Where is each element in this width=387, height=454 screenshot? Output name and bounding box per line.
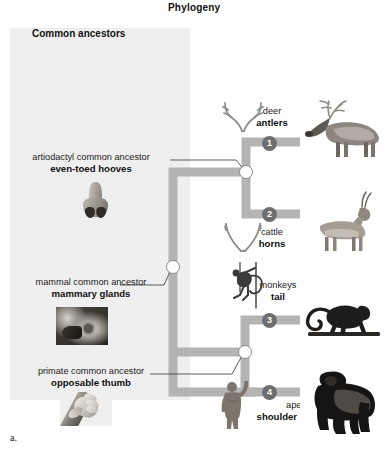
node-primate-ancestor[interactable] (238, 345, 252, 359)
mammary-photo-hand-shape (62, 326, 82, 339)
ancestor-label-artiodactyl: artiodactyl common ancestor even-toed ho… (6, 152, 176, 174)
antlers-sketch (222, 98, 264, 132)
mammary-glands-photo (56, 307, 108, 345)
ancestor-trait-primate: opposable thumb (6, 377, 176, 388)
opposable-thumb-photo (60, 392, 112, 426)
ancestor-name-primate: primate common ancestor (6, 366, 176, 376)
gorilla-photo (300, 368, 387, 436)
monkey-photo (300, 292, 387, 344)
branch-badge-1[interactable]: 1 (262, 136, 277, 151)
branch-badge-2[interactable]: 2 (262, 207, 277, 222)
ancestor-label-primate: primate common ancestor opposable thumb (6, 366, 176, 388)
figure-part-letter: a. (10, 432, 17, 443)
ancestor-name-mammal: mammal common ancestor (6, 277, 176, 287)
mammary-photo-gland-shape (84, 324, 93, 333)
common-ancestors-heading: Common ancestors (32, 28, 125, 39)
antelope-photo (300, 190, 387, 252)
node-artiodactyl-ancestor[interactable] (239, 165, 253, 179)
hoof-photo (78, 182, 114, 222)
ancestor-name-artiodactyl: artiodactyl common ancestor (6, 152, 176, 162)
ancestor-trait-artiodactyl: even-toed hooves (6, 163, 176, 174)
deer-photo (300, 96, 387, 158)
branch-badge-3[interactable]: 3 (262, 313, 277, 328)
monkey-tail-sketch (226, 262, 270, 310)
ancestor-trait-mammal: mammary glands (6, 288, 176, 299)
shoulder-rotation-sketch (214, 378, 254, 430)
horns-sketch (222, 222, 264, 252)
figure-title: Phylogeny (168, 2, 220, 13)
phylogeny-figure: Phylogeny Common ancestors (0, 0, 387, 454)
node-mammal-ancestor[interactable] (166, 260, 180, 274)
mammary-photo-base (56, 307, 108, 345)
branch-badge-4[interactable]: 4 (262, 385, 277, 400)
hoof-toe-right-shape (95, 206, 106, 218)
ancestor-label-mammal: mammal common ancestor mammary glands (6, 277, 176, 299)
